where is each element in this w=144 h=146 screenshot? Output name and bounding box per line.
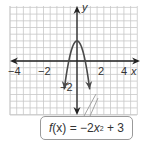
x-axis-label: x — [131, 66, 137, 77]
axes — [10, 6, 140, 115]
x-tick-label-neg4: −4 — [8, 66, 21, 77]
function-constant: + 3 — [104, 121, 124, 135]
x-tick-label-neg2: −2 — [38, 66, 51, 77]
x-tick-label-4: 4 — [121, 66, 127, 77]
function-equals: = −2 — [66, 121, 93, 135]
x-tick-label-2: 2 — [98, 66, 104, 77]
function-arg: (x) — [52, 121, 66, 135]
y-tick-label-neg2: −2 — [60, 82, 73, 93]
function-label-callout: f(x) = −2x2 + 3 — [40, 116, 133, 140]
y-axis-label: y — [82, 2, 88, 13]
